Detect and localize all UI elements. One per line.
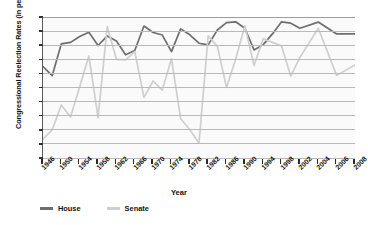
y-tick-mark <box>39 87 43 89</box>
chart-legend: HouseSenate <box>0 204 358 213</box>
gridline <box>43 31 355 32</box>
gridline <box>43 45 355 46</box>
y-axis-title: Congressional Reelection Rates (in perce… <box>14 0 23 135</box>
gridlines <box>43 17 355 158</box>
gridline <box>43 129 355 130</box>
legend-label: House <box>58 204 81 213</box>
gridline <box>43 73 355 74</box>
y-tick-mark <box>39 44 43 46</box>
x-axis-title: Year <box>0 188 358 197</box>
y-tick-mark <box>39 143 43 145</box>
gridline <box>43 59 355 60</box>
legend-label: Senate <box>125 204 149 213</box>
legend-swatch-icon <box>40 207 53 211</box>
y-tick-mark <box>39 115 43 117</box>
y-tick-mark <box>39 16 43 18</box>
legend-item-house[interactable]: House <box>40 204 81 213</box>
y-tick-mark <box>39 30 43 32</box>
gridline <box>43 17 355 18</box>
gridline <box>43 87 355 88</box>
plot-area <box>42 17 355 159</box>
y-tick-mark <box>39 101 43 103</box>
gridline <box>43 143 355 144</box>
gridline <box>43 115 355 116</box>
legend-swatch-icon <box>107 207 120 211</box>
gridline <box>43 101 355 102</box>
y-tick-mark <box>39 59 43 61</box>
y-tick-mark <box>39 73 43 75</box>
legend-item-senate[interactable]: Senate <box>107 204 149 213</box>
y-tick-mark <box>39 129 43 131</box>
